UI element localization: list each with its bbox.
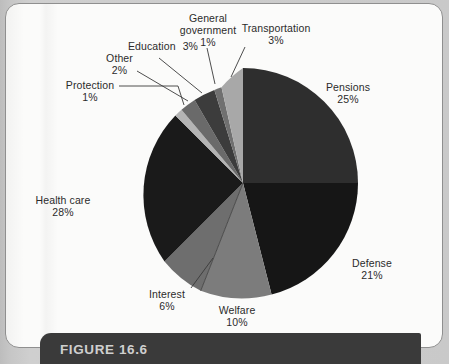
- figure-number-label: FIGURE 16.6: [60, 342, 148, 357]
- label-education: Education 3%: [128, 40, 200, 52]
- leader-line-general-government: [207, 48, 215, 84]
- label-welfare-pct: 10%: [208, 316, 266, 328]
- label-transportation: Transportation 3%: [230, 22, 322, 46]
- figure-caption-banner: FIGURE 16.6: [40, 333, 421, 364]
- pie-chart: General government 1% Transportation 3% …: [0, 0, 449, 364]
- label-interest-name: Interest: [139, 288, 195, 300]
- label-interest: Interest 6%: [139, 288, 195, 312]
- label-pensions-pct: 25%: [315, 93, 381, 105]
- label-defense-pct: 21%: [341, 269, 403, 281]
- label-health-care-name: Health care: [22, 194, 104, 206]
- label-pensions-name: Pensions: [315, 81, 381, 93]
- label-defense-name: Defense: [341, 257, 403, 269]
- label-health-care: Health care 28%: [22, 194, 104, 218]
- label-interest-pct: 6%: [139, 300, 195, 312]
- label-protection-name: Protection: [60, 79, 120, 91]
- label-protection-pct: 1%: [60, 91, 120, 103]
- label-welfare-name: Welfare: [208, 304, 266, 316]
- label-other: Other 2%: [97, 52, 142, 76]
- label-protection: Protection 1%: [60, 79, 120, 103]
- label-pensions: Pensions 25%: [315, 81, 381, 105]
- label-welfare: Welfare 10%: [208, 304, 266, 328]
- label-other-pct: 2%: [97, 64, 142, 76]
- label-other-name: Other: [97, 52, 142, 64]
- label-health-care-pct: 28%: [22, 206, 104, 218]
- label-transportation-name: Transportation: [230, 22, 322, 34]
- label-education-name: Education: [128, 40, 176, 52]
- label-education-pct: 3%: [183, 40, 198, 52]
- label-transportation-pct: 3%: [230, 34, 322, 46]
- label-defense: Defense 21%: [341, 257, 403, 281]
